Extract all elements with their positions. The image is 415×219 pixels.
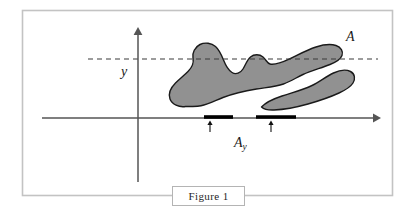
y-level-label: y [121, 65, 127, 79]
figure-container: A y Ay Figure 1 [0, 0, 415, 219]
region-a-label: A [346, 30, 355, 44]
figure-caption-box: Figure 1 [172, 186, 245, 206]
figure-caption-text: Figure 1 [188, 191, 228, 202]
slice-label: Ay [234, 136, 247, 153]
slice-label-base: A [234, 135, 243, 150]
slice-label-subscript: y [243, 142, 247, 152]
pointer-arrow-1 [207, 121, 212, 133]
x-axis-arrowhead [373, 114, 381, 123]
pointer-arrow-2 [268, 121, 273, 133]
y-axis-arrowhead [134, 27, 143, 35]
